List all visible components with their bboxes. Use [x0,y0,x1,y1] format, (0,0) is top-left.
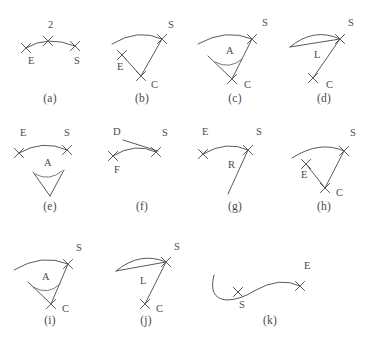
panel-b-arc [112,35,162,44]
panel-f-caption: (f) [96,200,188,212]
panel-b-label-s: S [168,19,174,30]
panel-g-marker-s-x-mark-icon [243,145,252,154]
panel-j-sketch: SLC [100,234,192,324]
panel-i-label-a: A [42,271,50,282]
panel-b-radius-s [141,39,162,76]
panel-c-marker-s-x-mark-icon [247,34,256,43]
panel-d-arc [290,35,340,48]
panel-h-marker-e-x-mark-icon [301,159,310,168]
panel-i-marker-c-x-mark-icon [46,299,55,308]
panel-i-angle-arc [33,284,60,291]
panel-f-arc [113,148,156,156]
panel-a-sketch: 2ES [4,6,96,96]
panel-d-marker-s-x-mark-icon [335,34,344,43]
figure-root: 2ES(a)SEC(b)SAC(c)SLC(d)ESA(e)DSF(f)ESR(… [0,0,368,354]
panel-d-label-s: S [348,17,354,28]
panel-e-marker-s-x-mark-icon [62,145,71,154]
panel-d-sketch: SLC [280,6,368,96]
panel-k-caption: (k) [200,314,340,326]
panel-a-caption: (a) [4,92,96,104]
panel-f: DSF [96,118,188,208]
panel-j-caption: (j) [100,314,192,326]
panel-j-label-l: L [140,275,146,286]
panel-j-chord [116,262,166,271]
panel-i-label-c: C [62,303,69,314]
panel-c-arc [198,35,252,44]
panel-c-marker-c-x-mark-icon [227,74,236,83]
panel-b-marker-e-x-mark-icon [117,50,126,59]
panel-e-label-s: S [64,127,70,138]
panel-g-caption: (g) [190,200,280,212]
panel-a-label-s: S [74,55,80,66]
panel-i-caption: (i) [4,314,96,326]
panel-h-radius-e [306,164,325,188]
panel-b-caption: (b) [96,92,188,104]
panel-c-label-s: S [262,17,268,28]
panel-c: SAC [190,6,280,96]
panel-e-angle-arc [35,171,62,177]
panel-a-marker-e-x-mark-icon [21,43,30,52]
panel-h-label-c: C [336,187,343,198]
panel-d-label-l: L [314,49,320,60]
panel-i-marker-s-x-mark-icon [63,259,72,268]
panel-f-marker-f-x-mark-icon [108,151,117,160]
panel-d-chord [290,39,340,47]
panel-k-marker-s-x-mark-icon [233,287,242,296]
panel-k-marker-e-x-mark-icon [295,281,304,290]
panel-h-label-e: E [301,169,307,180]
panel-g-sketch: ESR [190,118,280,208]
panel-j-label-s: S [174,241,180,252]
panel-f-label-s: S [162,127,168,138]
panel-b-sketch: SEC [96,6,188,96]
panel-c-caption: (c) [190,92,280,104]
panel-e-marker-e-x-mark-icon [14,148,23,157]
panel-f-label-d: D [113,126,121,137]
panel-k-sketch: SE [200,234,340,324]
panel-k: SE [200,234,340,324]
panel-g-label-e: E [202,126,208,137]
panel-j-label-c: C [156,303,163,314]
panel-i: SAC [4,234,96,324]
panel-e-label-a: A [44,157,52,168]
panel-d-caption: (d) [280,92,368,104]
panel-g-marker-e-x-mark-icon [198,149,207,158]
panel-i-arc [14,260,68,270]
panel-e-sketch: ESA [4,118,96,208]
panel-e-label-e: E [20,127,26,138]
panel-e: ESA [4,118,96,208]
panel-k-label-s: S [239,299,245,310]
panel-g: ESR [190,118,280,208]
panel-h-arc [292,147,344,158]
panel-g-label-r: R [228,159,235,170]
panel-c-sketch: SAC [190,6,280,96]
panel-b: SEC [96,6,188,96]
panel-c-label-a: A [226,45,234,56]
panel-e-arc [19,145,67,153]
panel-d: SLC [280,6,368,96]
panel-j: SLC [100,234,192,324]
panel-c-label-c: C [244,79,251,90]
panel-f-marker-s-x-mark-icon [151,147,160,156]
panel-b-label-e: E [117,61,123,72]
panel-e-caption: (e) [4,200,96,212]
panel-j-arc [116,258,166,271]
panel-h-marker-s-x-mark-icon [339,146,348,155]
panel-h: SEC [280,118,368,208]
panel-b-marker-s-x-mark-icon [157,34,166,43]
panel-a-label-two: 2 [48,19,53,30]
panel-k-label-e: E [304,260,310,271]
panel-h-caption: (h) [280,200,368,212]
panel-h-radius-s [325,151,344,188]
panel-j-radius-c [145,262,166,304]
panel-h-label-s: S [350,127,356,138]
panel-g-label-s: S [256,126,262,137]
panel-j-marker-c-x-mark-icon [140,299,149,308]
panel-d-label-c: C [326,79,333,90]
panel-a-marker-s-x-mark-icon [70,41,79,50]
panel-a: 2ES [4,6,96,96]
panel-e-wedge-left [33,172,50,196]
panel-i-label-s: S [76,242,82,253]
panel-h-marker-c-x-mark-icon [320,183,329,192]
panel-g-arc [203,146,248,154]
panel-j-marker-s-x-mark-icon [161,257,170,266]
